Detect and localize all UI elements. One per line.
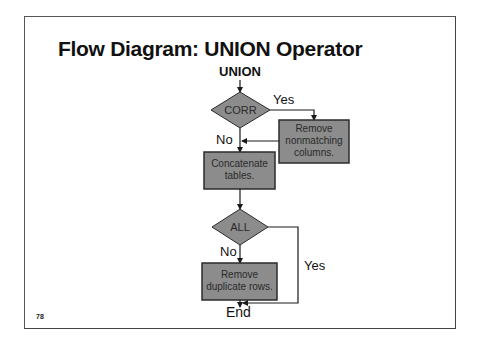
process-remove-duplicates-label: Remove duplicate rows. xyxy=(202,269,277,293)
start-label: UNION xyxy=(219,64,261,79)
page-number: 78 xyxy=(36,313,44,320)
process-remove-duplicates-line2: duplicate rows. xyxy=(202,281,277,293)
process-remove-nonmatching-line2: nonmatching xyxy=(279,135,349,147)
process-remove-duplicates-line1: Remove xyxy=(202,269,277,281)
all-no-label: No xyxy=(220,244,237,259)
process-remove-nonmatching-label: Remove nonmatching columns. xyxy=(279,123,349,159)
decision-corr-label: CORR xyxy=(211,104,270,116)
connector-corr-yes xyxy=(270,110,314,120)
process-concatenate-line1: Concatenate xyxy=(204,158,275,170)
all-yes-label: Yes xyxy=(304,258,325,273)
end-label: End xyxy=(226,304,251,320)
decision-all-label: ALL xyxy=(212,221,268,233)
process-remove-nonmatching-line3: columns. xyxy=(279,147,349,159)
process-remove-nonmatching-line1: Remove xyxy=(279,123,349,135)
corr-no-label: No xyxy=(216,132,233,147)
corr-yes-label: Yes xyxy=(273,92,294,107)
process-concatenate-label: Concatenate tables. xyxy=(204,158,275,182)
process-concatenate-line2: tables. xyxy=(204,170,275,182)
